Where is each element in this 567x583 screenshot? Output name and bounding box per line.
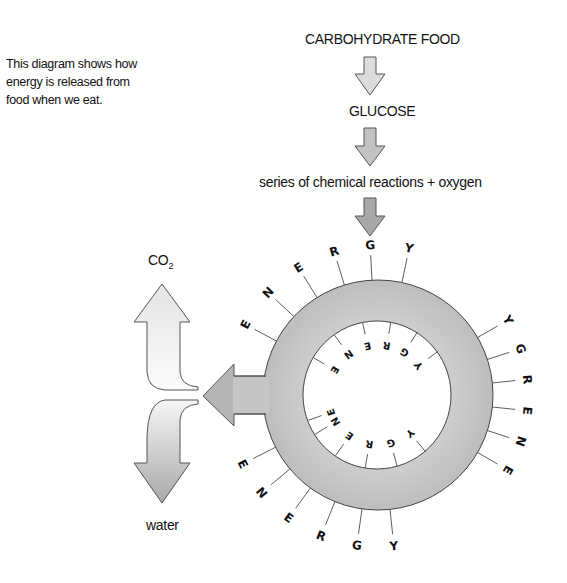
arrow-down-icon: [355, 198, 385, 236]
energy-letter: N: [342, 348, 355, 362]
arrow-down-icon: [355, 128, 385, 166]
energy-letter: R: [520, 374, 535, 385]
energy-letter: E: [500, 463, 516, 477]
energy-letter: N: [329, 415, 343, 428]
energy-diagram: ENERGYENERGYENERGYENERGYENERGY: [0, 0, 567, 583]
arrow-up-co2-icon: [134, 284, 198, 390]
energy-letter: Y: [402, 240, 415, 256]
arrow-down-water-icon: [134, 400, 198, 503]
energy-letter: G: [512, 342, 528, 356]
energy-letter: N: [260, 284, 277, 301]
energy-letter: R: [328, 244, 341, 260]
energy-letter: G: [351, 538, 363, 553]
energy-letter: R: [382, 340, 392, 352]
energy-letter: Y: [403, 426, 417, 440]
energy-letter: E: [520, 406, 535, 416]
energy-letter: G: [386, 437, 397, 450]
energy-letter: N: [253, 484, 270, 501]
arrow-down-icon: [355, 57, 385, 95]
energy-letter: Y: [388, 539, 399, 554]
energy-letter: Y: [499, 312, 516, 328]
energy-ring: [203, 280, 493, 510]
energy-letter: E: [237, 318, 253, 332]
energy-letter: E: [291, 260, 305, 276]
energy-letter: E: [234, 457, 250, 471]
energy-letter: G: [365, 238, 376, 252]
energy-letter: R: [314, 528, 328, 544]
energy-letter: E: [281, 510, 296, 526]
energy-letter: E: [328, 364, 341, 376]
energy-letter: G: [398, 346, 411, 360]
energy-letter: R: [364, 438, 374, 450]
energy-letter: E: [325, 407, 338, 417]
energy-letter: E: [363, 340, 372, 352]
energy-letter: N: [512, 434, 528, 448]
energy-letter: Y: [411, 359, 425, 373]
energy-letter: E: [343, 429, 355, 442]
